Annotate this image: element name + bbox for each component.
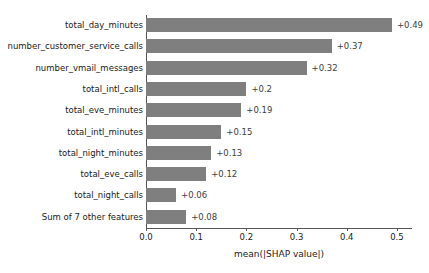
x-axis-tick-mark xyxy=(347,228,348,231)
bar-value-label: +0.2 xyxy=(251,82,272,96)
plot-area: +0.49+0.37+0.32+0.2+0.19+0.15+0.13+0.12+… xyxy=(146,15,412,228)
bar xyxy=(146,103,241,117)
bar xyxy=(146,82,246,96)
bar-value-label: +0.13 xyxy=(216,146,242,160)
bar-row: +0.32 xyxy=(146,58,412,79)
x-axis-tick-label: 0.4 xyxy=(340,232,354,243)
y-axis-tick-label: number_customer_service_calls xyxy=(3,41,143,51)
bar-row: +0.37 xyxy=(146,36,412,57)
bar-row: +0.15 xyxy=(146,122,412,143)
y-axis-tick-label: total_eve_minutes xyxy=(3,105,143,115)
bar-value-label: +0.06 xyxy=(181,188,207,202)
bar-value-label: +0.49 xyxy=(397,18,423,32)
bar-row: +0.2 xyxy=(146,79,412,100)
bar-value-label: +0.19 xyxy=(246,103,272,117)
bar xyxy=(146,188,176,202)
bar-row: +0.08 xyxy=(146,207,412,228)
x-axis-spine xyxy=(146,228,412,229)
shap-bar-chart-figure: total_day_minutesnumber_customer_service… xyxy=(0,0,429,273)
x-axis-tick-label: 0.5 xyxy=(390,232,404,243)
y-axis-tick-label: total_intl_minutes xyxy=(3,127,143,137)
x-axis-tick-mark xyxy=(196,228,197,231)
bar-value-label: +0.37 xyxy=(337,39,363,53)
y-axis-tick-label: Sum of 7 other features xyxy=(3,212,143,222)
bar xyxy=(146,39,332,53)
x-axis-title: mean(|SHAP value|) xyxy=(146,248,412,260)
bar xyxy=(146,18,392,32)
bar xyxy=(146,61,307,75)
y-axis-tick-label: number_vmail_messages xyxy=(3,63,143,73)
bar-value-label: +0.12 xyxy=(211,167,237,181)
y-axis-tick-label: total_night_calls xyxy=(3,190,143,200)
x-axis-tick-label: 0.3 xyxy=(290,232,304,243)
bar-row: +0.13 xyxy=(146,143,412,164)
bar-row: +0.12 xyxy=(146,164,412,185)
x-axis-tick-label: 0.2 xyxy=(240,232,254,243)
x-axis-tick-mark xyxy=(146,228,147,231)
bar-value-label: +0.15 xyxy=(226,125,252,139)
bar xyxy=(146,210,186,224)
x-axis-tick-mark xyxy=(246,228,247,231)
x-axis-tick-label: 0.1 xyxy=(189,232,203,243)
y-axis-tick-label: total_intl_calls xyxy=(3,84,143,94)
bar xyxy=(146,167,206,181)
bar-value-label: +0.08 xyxy=(191,210,217,224)
bar-row: +0.06 xyxy=(146,185,412,206)
bar-row: +0.19 xyxy=(146,100,412,121)
bar-row: +0.49 xyxy=(146,15,412,36)
x-axis-tick-mark xyxy=(397,228,398,231)
y-axis-tick-label: total_night_minutes xyxy=(3,148,143,158)
y-axis-tick-label: total_eve_calls xyxy=(3,169,143,179)
x-axis-tick-label: 0.0 xyxy=(139,232,153,243)
bar-value-label: +0.32 xyxy=(312,61,338,75)
x-axis-tick-mark xyxy=(297,228,298,231)
bar xyxy=(146,125,221,139)
y-axis-tick-label: total_day_minutes xyxy=(3,20,143,30)
y-axis-tick-labels: total_day_minutesnumber_customer_service… xyxy=(0,15,143,228)
bar xyxy=(146,146,211,160)
